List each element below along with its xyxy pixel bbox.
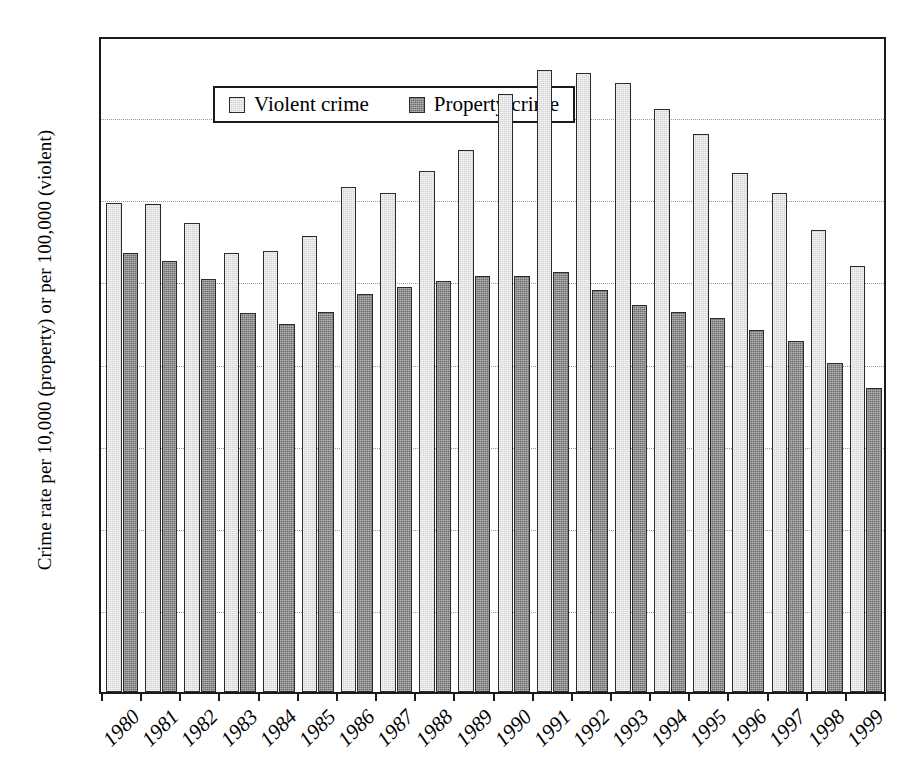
- x-tick-label-1990: 1990: [521, 706, 536, 721]
- x-tick-label-1994: 1994: [677, 706, 692, 721]
- bar-violent-1984[interactable]: [263, 251, 279, 692]
- x-tick-label-1983: 1983: [247, 706, 262, 721]
- bar-violent-1990[interactable]: [498, 94, 514, 692]
- bars-layer: [101, 39, 884, 692]
- bar-property-1992[interactable]: [592, 290, 608, 692]
- x-tick-mark-1980: [101, 694, 103, 701]
- bar-violent-1998[interactable]: [811, 230, 827, 692]
- bar-property-1983[interactable]: [240, 313, 256, 692]
- bar-property-1988[interactable]: [436, 281, 452, 692]
- x-tick-mark-1999: [845, 694, 847, 701]
- x-tick-mark-1982: [179, 694, 181, 701]
- bar-violent-1994[interactable]: [654, 109, 670, 692]
- x-tick-label-1997: 1997: [795, 706, 810, 721]
- x-tick-mark-1992: [571, 694, 573, 701]
- bar-violent-1985[interactable]: [302, 236, 318, 692]
- x-tick-mark-1981: [140, 694, 142, 701]
- x-tick-label-1986: 1986: [364, 706, 379, 721]
- bar-property-1995[interactable]: [710, 318, 726, 692]
- bar-violent-1987[interactable]: [380, 193, 396, 692]
- bar-property-1984[interactable]: [279, 324, 295, 692]
- bar-property-1982[interactable]: [201, 279, 217, 692]
- x-tick-label-1991: 1991: [560, 706, 575, 721]
- bar-property-1999[interactable]: [866, 388, 882, 692]
- x-tick-mark-1989: [453, 694, 455, 701]
- bar-violent-1980[interactable]: [106, 203, 122, 692]
- x-tick-label-1996: 1996: [756, 706, 771, 721]
- bar-property-1991[interactable]: [553, 272, 569, 692]
- x-tick-label-1995: 1995: [716, 706, 731, 721]
- bar-property-1996[interactable]: [749, 330, 765, 692]
- bar-property-1981[interactable]: [162, 261, 178, 692]
- x-tick-label-1980: 1980: [129, 706, 144, 721]
- x-tick-label-1993: 1993: [638, 706, 653, 721]
- bar-property-1989[interactable]: [475, 276, 491, 692]
- x-tick-mark-1986: [336, 694, 338, 701]
- bar-violent-1992[interactable]: [576, 73, 592, 692]
- bar-violent-1989[interactable]: [458, 150, 474, 692]
- bar-violent-1981[interactable]: [145, 204, 161, 692]
- x-tick-mark-1998: [806, 694, 808, 701]
- bar-violent-1997[interactable]: [772, 193, 788, 692]
- x-tick-label-1988: 1988: [442, 706, 457, 721]
- bar-property-1980[interactable]: [123, 253, 139, 692]
- x-tick-label-1982: 1982: [207, 706, 222, 721]
- bar-property-1994[interactable]: [671, 312, 687, 692]
- x-tick-mark-1984: [258, 694, 260, 701]
- x-tick-mark-1983: [218, 694, 220, 701]
- x-tick-mark-1997: [767, 694, 769, 701]
- x-tick-mark-1996: [727, 694, 729, 701]
- x-tick-mark-1990: [493, 694, 495, 701]
- x-tick-mark-1987: [375, 694, 377, 701]
- crime-rate-bar-chart: Crime rate per 10,000 (property) or per …: [0, 0, 912, 767]
- x-tick-mark-1993: [610, 694, 612, 701]
- bar-violent-1988[interactable]: [419, 171, 435, 692]
- bar-property-1997[interactable]: [788, 341, 804, 692]
- bar-violent-1983[interactable]: [224, 253, 240, 692]
- bar-property-1993[interactable]: [632, 305, 648, 692]
- x-tick-mark-1995: [688, 694, 690, 701]
- x-tick-label-1985: 1985: [325, 706, 340, 721]
- bar-property-1985[interactable]: [318, 312, 334, 692]
- bar-property-1987[interactable]: [397, 287, 413, 692]
- x-tick-label-1987: 1987: [403, 706, 418, 721]
- bar-violent-1982[interactable]: [184, 223, 200, 692]
- bar-violent-1999[interactable]: [850, 266, 866, 692]
- x-tick-mark-1985: [297, 694, 299, 701]
- bar-violent-1996[interactable]: [732, 173, 748, 692]
- x-tick-label-1999: 1999: [873, 706, 888, 721]
- bar-property-1990[interactable]: [514, 276, 530, 692]
- x-tick-label-1989: 1989: [482, 706, 497, 721]
- bar-violent-1991[interactable]: [537, 70, 553, 692]
- bar-violent-1995[interactable]: [693, 134, 709, 692]
- bar-violent-1986[interactable]: [341, 187, 357, 692]
- bar-property-1998[interactable]: [827, 363, 843, 692]
- bar-violent-1993[interactable]: [615, 83, 631, 692]
- x-tick-mark-1988: [414, 694, 416, 701]
- y-axis-title: Crime rate per 10,000 (property) or per …: [30, 0, 60, 700]
- x-tick-mark-1994: [649, 694, 651, 701]
- x-tick-label-1992: 1992: [599, 706, 614, 721]
- x-tick-mark-end: [884, 694, 886, 701]
- x-tick-label-1984: 1984: [286, 706, 301, 721]
- x-tick-label-1981: 1981: [168, 706, 183, 721]
- bar-property-1986[interactable]: [357, 294, 373, 692]
- x-tick-label-1998: 1998: [834, 706, 849, 721]
- x-tick-mark-1991: [532, 694, 534, 701]
